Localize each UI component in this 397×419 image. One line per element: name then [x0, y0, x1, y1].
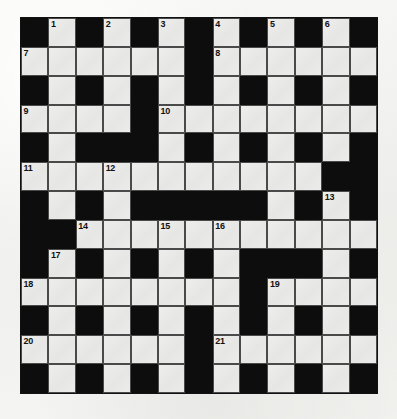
crossword-cell[interactable]: 9	[21, 105, 48, 134]
crossword-cell[interactable]	[131, 335, 158, 364]
crossword-cell[interactable]	[48, 76, 75, 105]
crossword-cell[interactable]: 7	[21, 47, 48, 76]
crossword-cell[interactable]	[350, 278, 377, 307]
crossword-cell[interactable]	[185, 162, 212, 191]
crossword-cell[interactable]	[76, 278, 103, 307]
crossword-cell[interactable]	[48, 306, 75, 335]
crossword-cell[interactable]	[267, 335, 294, 364]
crossword-cell[interactable]	[213, 133, 240, 162]
crossword-cell[interactable]	[350, 335, 377, 364]
crossword-cell[interactable]	[295, 47, 322, 76]
crossword-cell[interactable]	[158, 335, 185, 364]
crossword-cell[interactable]: 6	[322, 18, 349, 47]
crossword-cell[interactable]	[350, 105, 377, 134]
crossword-cell[interactable]	[103, 278, 130, 307]
crossword-cell[interactable]	[158, 76, 185, 105]
crossword-cell[interactable]: 11	[21, 162, 48, 191]
crossword-cell[interactable]	[240, 220, 267, 249]
crossword-cell[interactable]	[267, 133, 294, 162]
crossword-cell[interactable]	[267, 162, 294, 191]
crossword-cell[interactable]: 12	[103, 162, 130, 191]
crossword-cell[interactable]	[240, 47, 267, 76]
crossword-cell[interactable]	[267, 47, 294, 76]
crossword-cell[interactable]: 5	[267, 18, 294, 47]
crossword-cell[interactable]	[322, 76, 349, 105]
crossword-cell[interactable]	[213, 76, 240, 105]
crossword-cell[interactable]	[76, 105, 103, 134]
crossword-cell[interactable]: 19	[267, 278, 294, 307]
crossword-cell[interactable]	[76, 47, 103, 76]
crossword-cell[interactable]	[131, 278, 158, 307]
crossword-cell[interactable]	[48, 133, 75, 162]
crossword-cell[interactable]	[350, 47, 377, 76]
crossword-cell[interactable]	[240, 162, 267, 191]
crossword-cell[interactable]: 21	[213, 335, 240, 364]
crossword-cell[interactable]	[103, 47, 130, 76]
crossword-cell[interactable]	[322, 220, 349, 249]
crossword-cell[interactable]	[131, 162, 158, 191]
crossword-cell[interactable]	[103, 306, 130, 335]
crossword-cell[interactable]	[76, 335, 103, 364]
crossword-cell[interactable]	[213, 278, 240, 307]
crossword-cell[interactable]	[48, 47, 75, 76]
crossword-cell[interactable]	[48, 278, 75, 307]
crossword-cell[interactable]	[295, 105, 322, 134]
crossword-cell[interactable]	[295, 162, 322, 191]
crossword-cell[interactable]: 8	[213, 47, 240, 76]
crossword-cell[interactable]	[185, 220, 212, 249]
crossword-cell[interactable]	[267, 76, 294, 105]
crossword-cell[interactable]	[322, 47, 349, 76]
crossword-cell[interactable]	[48, 191, 75, 220]
crossword-grid[interactable]: 123456789101112131415161718192021	[20, 17, 378, 394]
crossword-cell[interactable]: 18	[21, 278, 48, 307]
crossword-cell[interactable]	[322, 105, 349, 134]
crossword-cell[interactable]	[158, 133, 185, 162]
crossword-cell[interactable]: 2	[103, 18, 130, 47]
crossword-cell[interactable]	[213, 306, 240, 335]
crossword-cell[interactable]	[185, 105, 212, 134]
crossword-cell[interactable]	[295, 335, 322, 364]
crossword-cell[interactable]	[158, 249, 185, 278]
crossword-cell[interactable]: 16	[213, 220, 240, 249]
crossword-cell[interactable]	[158, 162, 185, 191]
crossword-cell[interactable]	[76, 162, 103, 191]
crossword-cell[interactable]: 4	[213, 18, 240, 47]
crossword-cell[interactable]	[322, 364, 349, 393]
crossword-cell[interactable]: 10	[158, 105, 185, 134]
crossword-cell[interactable]	[103, 105, 130, 134]
crossword-cell[interactable]	[185, 278, 212, 307]
crossword-cell[interactable]	[158, 47, 185, 76]
crossword-cell[interactable]	[103, 335, 130, 364]
crossword-cell[interactable]: 14	[76, 220, 103, 249]
crossword-cell[interactable]	[131, 220, 158, 249]
crossword-cell[interactable]	[48, 162, 75, 191]
crossword-cell[interactable]	[322, 306, 349, 335]
crossword-cell[interactable]	[103, 249, 130, 278]
crossword-cell[interactable]	[322, 133, 349, 162]
crossword-cell[interactable]	[158, 278, 185, 307]
crossword-cell[interactable]: 20	[21, 335, 48, 364]
crossword-cell[interactable]	[267, 306, 294, 335]
crossword-cell[interactable]	[213, 364, 240, 393]
crossword-cell[interactable]	[240, 105, 267, 134]
crossword-cell[interactable]	[240, 335, 267, 364]
crossword-cell[interactable]: 17	[48, 249, 75, 278]
crossword-cell[interactable]: 13	[322, 191, 349, 220]
crossword-cell[interactable]	[103, 191, 130, 220]
crossword-cell[interactable]: 15	[158, 220, 185, 249]
crossword-cell[interactable]	[158, 306, 185, 335]
crossword-cell[interactable]	[48, 335, 75, 364]
crossword-cell[interactable]	[131, 47, 158, 76]
crossword-cell[interactable]	[48, 364, 75, 393]
crossword-cell[interactable]	[295, 278, 322, 307]
crossword-cell[interactable]	[267, 364, 294, 393]
crossword-cell[interactable]	[350, 220, 377, 249]
crossword-cell[interactable]	[322, 335, 349, 364]
crossword-cell[interactable]	[103, 364, 130, 393]
crossword-cell[interactable]	[267, 220, 294, 249]
crossword-cell[interactable]	[322, 278, 349, 307]
crossword-cell[interactable]: 3	[158, 18, 185, 47]
crossword-cell[interactable]	[295, 220, 322, 249]
crossword-cell[interactable]	[267, 105, 294, 134]
crossword-cell[interactable]	[267, 191, 294, 220]
